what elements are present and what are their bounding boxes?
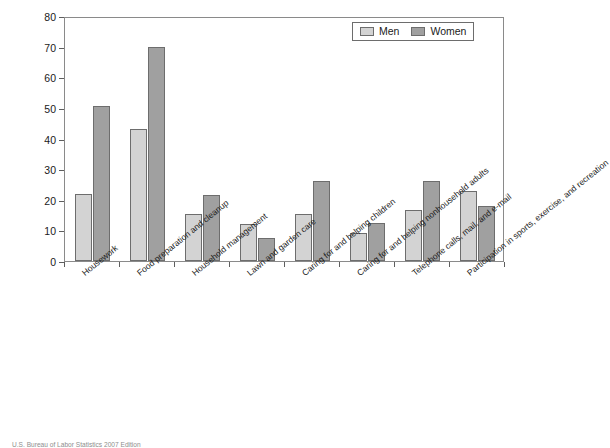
legend-item-men: Men xyxy=(360,26,399,37)
legend: Men Women xyxy=(352,22,474,41)
x-axis-label: Food preparation and cleanup xyxy=(135,198,230,278)
source-note: U.S. Bureau of Labor Statistics 2007 Edi… xyxy=(12,441,141,448)
x-axis-label: Caring for and helping children xyxy=(300,196,397,277)
x-axis-label: Telephone calls, mail, and e-mail xyxy=(410,192,513,278)
x-axis-label: Housework xyxy=(80,243,120,278)
legend-label-men: Men xyxy=(379,26,399,37)
legend-swatch-men-icon xyxy=(360,27,374,36)
legend-swatch-women-icon xyxy=(411,27,425,36)
legend-item-women: Women xyxy=(411,26,466,37)
legend-label-women: Women xyxy=(430,26,466,37)
